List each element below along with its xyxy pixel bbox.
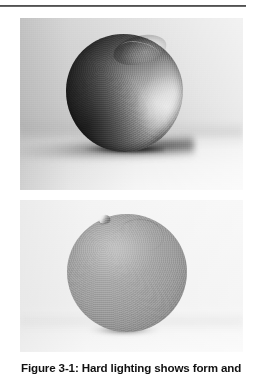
document-page: Figure 3-1: Hard lighting shows form and	[0, 0, 265, 379]
figure-photo-soft-lighting	[20, 200, 243, 352]
orange-fruit	[67, 214, 187, 332]
orange-fruit	[66, 34, 183, 152]
edge-shading	[67, 214, 187, 332]
figure-caption: Figure 3-1: Hard lighting shows form and	[21, 361, 245, 375]
header-rule	[0, 5, 246, 7]
figure-photo-hard-lighting	[20, 18, 243, 190]
